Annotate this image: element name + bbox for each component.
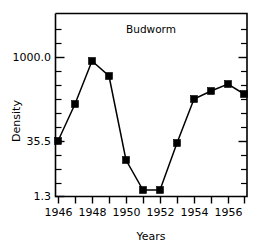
- data-point: [55, 138, 62, 145]
- data-point: [241, 91, 248, 98]
- data-point: [140, 187, 147, 194]
- data-point: [123, 157, 130, 164]
- x-tick-label-1946: 1946: [45, 206, 73, 219]
- x-tick-label-1950: 1950: [113, 206, 141, 219]
- y-tick-label-1-3: 1.3: [34, 190, 52, 203]
- budworm-density-chart: Budworm 1000.0 35.5 1.3 1946 1948 1950 1…: [0, 0, 265, 252]
- y-tick-label-35-5: 35.5: [27, 135, 52, 148]
- data-point: [157, 187, 164, 194]
- chart-figure: Budworm 1000.0 35.5 1.3 1946 1948 1950 1…: [0, 0, 265, 252]
- y-tick-label-1000: 1000.0: [13, 51, 52, 64]
- data-point: [106, 73, 113, 80]
- x-tick-label-1956: 1956: [215, 206, 243, 219]
- data-point: [191, 96, 198, 103]
- y-axis-title: Density: [10, 100, 23, 142]
- data-point: [208, 88, 215, 95]
- data-point: [225, 81, 232, 88]
- x-tick-label-1954: 1954: [181, 206, 209, 219]
- x-axis-title: Years: [135, 230, 165, 243]
- x-tick-label-1952: 1952: [147, 206, 175, 219]
- data-point: [89, 58, 96, 65]
- data-point: [72, 101, 79, 108]
- data-point: [174, 140, 181, 147]
- x-tick-label-1948: 1948: [79, 206, 107, 219]
- chart-title: Budworm: [126, 23, 176, 35]
